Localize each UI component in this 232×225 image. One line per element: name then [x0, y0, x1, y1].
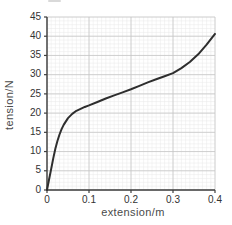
y-tick-label: 30	[30, 68, 42, 79]
y-tick-label: 25	[30, 88, 42, 99]
x-tick-label: 0.1	[82, 194, 96, 205]
x-tick-label: 0.4	[208, 194, 222, 205]
x-tick-label: 0.2	[124, 194, 138, 205]
x-tick-label: 0	[44, 194, 50, 205]
y-axis-title: tension/N	[3, 59, 15, 151]
y-tick-label: 5	[35, 164, 41, 175]
tension-extension-line-chart: 00.10.20.30.4051015202530354045	[0, 0, 232, 225]
y-tick-label: 40	[30, 30, 42, 41]
x-axis-title: extension/m	[0, 206, 232, 218]
y-tick-label: 10	[30, 145, 42, 156]
y-tick-label: 35	[30, 49, 42, 60]
force-extension-graph-page: 00.10.20.30.4051015202530354045 extensio…	[0, 0, 232, 225]
y-tick-label: 45	[30, 11, 42, 22]
x-tick-label: 0.3	[166, 194, 180, 205]
y-tick-label: 15	[30, 126, 42, 137]
y-tick-label: 20	[30, 107, 42, 118]
y-tick-label: 0	[35, 184, 41, 195]
